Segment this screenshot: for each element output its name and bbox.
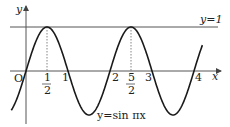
origin-label: O <box>14 72 23 85</box>
tick-label-half-den: 2 <box>44 84 51 97</box>
tick-label-five-halves-den: 2 <box>128 84 135 97</box>
sine-graph: y x O 1 2 1 2 5 2 3 4 y=1 y=sin πx <box>0 0 230 127</box>
reference-line-label: y=1 <box>199 13 222 26</box>
tick-label-3: 3 <box>145 71 152 84</box>
curve-label: y=sin πx <box>96 109 146 122</box>
y-axis-label: y <box>15 3 23 16</box>
tick-label-1: 1 <box>62 71 69 84</box>
x-axis-label: x <box>212 70 219 83</box>
tick-label-half-num: 1 <box>44 71 51 84</box>
tick-label-4: 4 <box>195 71 202 84</box>
tick-label-five-halves-num: 5 <box>128 71 135 84</box>
tick-label-2: 2 <box>112 71 119 84</box>
